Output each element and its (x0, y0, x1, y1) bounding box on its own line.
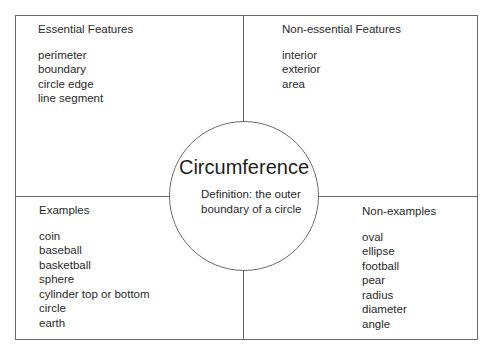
list-item: perimeter (38, 48, 133, 63)
quadrant-non-essential-features: Non-essential Features interior exterior… (282, 22, 401, 91)
quadrant-heading: Examples (39, 203, 150, 218)
quadrant-examples: Examples coin baseball basketball sphere… (39, 203, 150, 330)
list-item: angle (362, 317, 436, 332)
list-item: earth (39, 316, 150, 331)
list-item: pear (362, 273, 436, 288)
list-item: football (362, 259, 436, 274)
list-item: sphere (39, 272, 150, 287)
list-item: diameter (362, 302, 436, 317)
right-horizontal-divider (318, 196, 478, 197)
quadrant-heading: Non-examples (362, 204, 436, 219)
list-item: ellipse (362, 244, 436, 259)
quadrant-heading: Essential Features (38, 22, 133, 37)
list-item: circle edge (38, 77, 133, 92)
list-item: radius (362, 288, 436, 303)
list-item: exterior (282, 62, 401, 77)
list-item: oval (362, 230, 436, 245)
list-item: interior (282, 48, 401, 63)
list-item: circle (39, 301, 150, 316)
quadrant-non-examples: Non-examples oval ellipse football pear … (362, 204, 436, 331)
quadrant-essential-features: Essential Features perimeter boundary ci… (38, 22, 133, 106)
list-item: area (282, 77, 401, 92)
center-term: Circumference (169, 156, 319, 179)
list-item: basketball (39, 258, 150, 273)
list-item: line segment (38, 91, 133, 106)
center-definition: Definition: the outer boundary of a circ… (201, 187, 311, 216)
list-item: coin (39, 229, 150, 244)
list-item: cylinder top or bottom (39, 287, 150, 302)
left-horizontal-divider (15, 196, 170, 197)
list-item: boundary (38, 62, 133, 77)
list-item: baseball (39, 243, 150, 258)
quadrant-heading: Non-essential Features (282, 22, 401, 37)
